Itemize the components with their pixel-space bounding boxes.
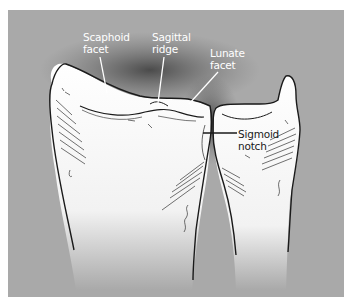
label-line: facet <box>83 43 130 55</box>
label-line: Sagittal <box>152 31 191 43</box>
label-sigmoid-notch: Sigmoid notch <box>238 128 279 152</box>
label-lunate-facet: Lunate facet <box>210 47 245 71</box>
label-line: Sigmoid <box>238 128 279 140</box>
label-line: ridge <box>152 43 191 55</box>
label-sagittal-ridge: Sagittal ridge <box>152 31 191 55</box>
label-scaphoid-facet: Scaphoid facet <box>83 31 130 55</box>
ulna-bone <box>214 76 300 290</box>
label-line: Scaphoid <box>83 31 130 43</box>
label-line: Lunate <box>210 47 245 59</box>
label-line: facet <box>210 59 245 71</box>
label-line: notch <box>238 140 279 152</box>
